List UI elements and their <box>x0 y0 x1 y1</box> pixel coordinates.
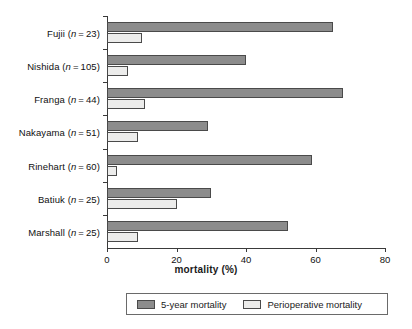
bar-perioperative-mortality <box>107 99 145 109</box>
bar-group: Marshall (n = 25) <box>107 215 385 248</box>
bar-5-year-mortality <box>107 88 343 98</box>
legend-item-5-year-mortality: 5-year mortality <box>137 299 226 310</box>
bar-5-year-mortality <box>107 55 246 65</box>
bar-perioperative-mortality <box>107 132 138 142</box>
bar-perioperative-mortality <box>107 33 142 43</box>
bar-5-year-mortality <box>107 188 211 198</box>
bar-group: Rinehart (n = 60) <box>107 149 385 182</box>
bar-5-year-mortality <box>107 22 333 32</box>
legend-item-perioperative-mortality: Perioperative mortality <box>243 299 362 310</box>
bar-group: Fujii (n = 23) <box>107 16 385 49</box>
chart-legend: 5-year mortality Perioperative mortality <box>126 293 388 315</box>
y-axis-label-nakayama: Nakayama (n = 51) <box>19 127 100 138</box>
x-axis-tick <box>177 248 178 252</box>
y-axis-tick <box>103 49 107 50</box>
y-axis-tick <box>103 115 107 116</box>
legend-swatch-icon-dark <box>137 300 155 309</box>
bar-perioperative-mortality <box>107 66 128 76</box>
legend-label-5-year-mortality: 5-year mortality <box>161 299 226 310</box>
legend-label-perioperative-mortality: Perioperative mortality <box>267 299 362 310</box>
x-axis-tick <box>316 248 317 252</box>
bar-group: Batiuk (n = 25) <box>107 182 385 215</box>
y-axis-label-marshall: Marshall (n = 25) <box>28 227 100 238</box>
bar-perioperative-mortality <box>107 232 138 242</box>
x-axis-tick <box>246 248 247 252</box>
x-axis-title: mortality (%) <box>0 264 412 275</box>
x-axis-tick <box>107 248 108 252</box>
y-axis-tick <box>103 215 107 216</box>
bar-5-year-mortality <box>107 121 208 131</box>
y-axis-label-batiuk: Batiuk (n = 25) <box>38 194 100 205</box>
y-axis-label-rinehart: Rinehart (n = 60) <box>28 161 100 172</box>
y-axis-label-franga: Franga (n = 44) <box>34 94 100 105</box>
y-axis-tick <box>103 82 107 83</box>
bar-perioperative-mortality <box>107 166 117 176</box>
legend-swatch-icon-light <box>243 300 261 309</box>
bar-group: Nakayama (n = 51) <box>107 115 385 148</box>
y-axis-tick <box>103 16 107 17</box>
y-axis-label-nishida: Nishida (n = 105) <box>27 61 100 72</box>
plot-area: Fujii (n = 23)Nishida (n = 105)Franga (n… <box>107 16 385 248</box>
y-axis-label-fujii: Fujii (n = 23) <box>47 28 100 39</box>
y-axis-tick <box>103 149 107 150</box>
bar-chart: Fujii (n = 23)Nishida (n = 105)Franga (n… <box>0 0 412 329</box>
bar-5-year-mortality <box>107 221 288 231</box>
y-axis-tick <box>103 182 107 183</box>
bar-group: Franga (n = 44) <box>107 82 385 115</box>
bar-group: Nishida (n = 105) <box>107 49 385 82</box>
bar-perioperative-mortality <box>107 199 177 209</box>
bar-5-year-mortality <box>107 155 312 165</box>
x-axis-tick <box>385 248 386 252</box>
